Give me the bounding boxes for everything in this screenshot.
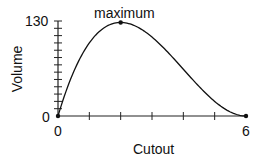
y-max-label: 130 <box>25 14 48 28</box>
maximum-annotation: maximum <box>94 6 155 20</box>
y-axis-title: Volume <box>10 46 24 93</box>
data-points <box>56 20 248 118</box>
data-point <box>244 114 248 118</box>
data-point <box>56 114 60 118</box>
y-min-label: 0 <box>42 110 50 124</box>
x-axis-title: Cutout <box>133 142 174 156</box>
volume-curve <box>58 22 246 116</box>
x-max-label: 6 <box>242 124 250 138</box>
x-min-label: 0 <box>54 124 62 138</box>
